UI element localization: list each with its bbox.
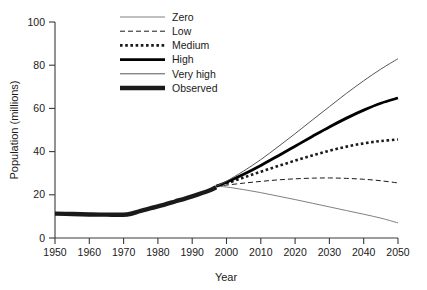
y-axis-title: Population (millions) <box>8 80 20 179</box>
legend-label-high: High <box>172 53 194 65</box>
legend-label-zero: Zero <box>172 11 194 23</box>
series-line-medium <box>216 140 398 187</box>
x-axis-tick-labels: 1950196019701980199020002010202020302040… <box>43 246 410 258</box>
legend-label-very-high: Very high <box>172 68 216 80</box>
x-tick-label: 2050 <box>386 246 410 258</box>
series-line-low <box>216 178 398 186</box>
x-axis-ticks <box>55 238 398 244</box>
x-tick-label: 2020 <box>283 246 307 258</box>
y-tick-label: 60 <box>33 102 45 114</box>
data-series-group <box>55 59 398 223</box>
legend-label-medium: Medium <box>172 39 210 51</box>
y-axis-tick-labels: 020406080100 <box>27 16 45 244</box>
x-tick-label: 2040 <box>352 246 376 258</box>
chart-container: 020406080100 195019601970198019902000201… <box>0 0 427 290</box>
series-line-zero <box>216 186 398 223</box>
legend-label-observed: Observed <box>172 82 218 94</box>
series-line-observed <box>55 187 216 215</box>
x-axis-title: Year <box>215 271 238 283</box>
x-tick-label: 1960 <box>78 246 102 258</box>
y-tick-label: 80 <box>33 59 45 71</box>
series-line-high <box>216 98 398 186</box>
y-tick-label: 40 <box>33 145 45 157</box>
series-line-very-high <box>216 59 398 186</box>
legend-label-low: Low <box>172 25 192 37</box>
x-tick-label: 2000 <box>215 246 239 258</box>
population-projection-chart: 020406080100 195019601970198019902000201… <box>0 0 427 290</box>
chart-legend: ZeroLowMediumHighVery highObserved <box>120 11 218 94</box>
y-tick-label: 100 <box>27 16 45 28</box>
x-tick-label: 2010 <box>249 246 273 258</box>
x-tick-label: 1950 <box>43 246 67 258</box>
x-tick-label: 1980 <box>146 246 170 258</box>
x-tick-label: 1970 <box>112 246 136 258</box>
y-tick-label: 20 <box>33 188 45 200</box>
x-tick-label: 2030 <box>318 246 342 258</box>
x-tick-label: 1990 <box>181 246 205 258</box>
y-tick-label: 0 <box>39 232 45 244</box>
y-axis-ticks <box>49 22 55 238</box>
